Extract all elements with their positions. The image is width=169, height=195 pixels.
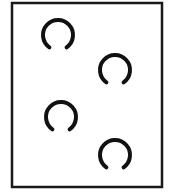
open-ring-1 bbox=[43, 20, 73, 47]
diagram-canvas bbox=[0, 0, 169, 195]
open-ring-4 bbox=[100, 140, 130, 167]
diagram bbox=[0, 0, 169, 195]
frame-rectangle bbox=[12, 3, 162, 187]
ring-group bbox=[43, 20, 130, 167]
open-ring-2 bbox=[100, 55, 130, 82]
open-ring-3 bbox=[46, 102, 76, 129]
